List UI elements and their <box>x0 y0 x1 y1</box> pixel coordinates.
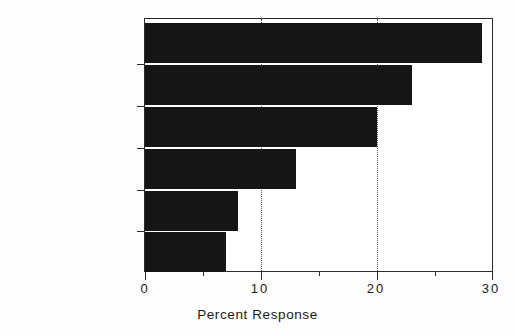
x-tick-label-0: 0 <box>125 281 165 296</box>
bar-other <box>145 149 296 189</box>
bar-not-appropriate <box>145 232 226 272</box>
x-tick-label-30: 30 <box>471 281 511 296</box>
bar-not-available-responsive <box>145 23 482 63</box>
x-tick-15 <box>319 272 320 276</box>
y-tick-2 <box>137 106 144 107</box>
y-tick-5 <box>137 231 144 232</box>
x-tick-20 <box>377 272 378 280</box>
bar-chart-figure: Not Available/Responsive Not Aware No Ne… <box>0 0 515 336</box>
y-tick-1 <box>137 64 144 65</box>
y-tick-3 <box>137 148 144 149</box>
bar-no-time <box>145 191 238 231</box>
x-tick-label-10: 10 <box>240 281 280 296</box>
x-tick-0 <box>145 272 146 280</box>
x-tick-30 <box>492 272 493 280</box>
bar-not-aware <box>145 65 412 105</box>
y-tick-4 <box>137 190 144 191</box>
x-tick-label-20: 20 <box>356 281 396 296</box>
bars-layer <box>145 19 492 271</box>
x-axis-title: Percent Response <box>0 307 515 322</box>
x-tick-5 <box>203 272 204 276</box>
x-tick-25 <box>435 272 436 276</box>
plot-area <box>144 18 493 272</box>
bar-no-need <box>145 107 377 147</box>
x-tick-10 <box>261 272 262 280</box>
